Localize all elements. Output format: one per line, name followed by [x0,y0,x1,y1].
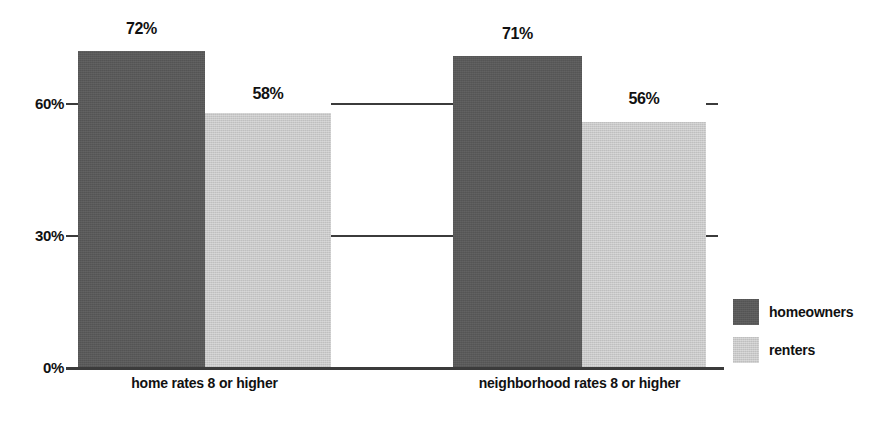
bar-neighborhood-rates-homeowners [453,56,582,368]
gridline-30 [331,235,453,237]
legend-item-homeowners: homeowners [733,297,865,327]
y-axis-label-30: 30% [35,227,64,244]
x-axis-baseline [66,367,724,370]
bar-home-rates-renters [205,113,331,368]
y-axis-label-60: 60% [35,95,64,112]
legend-item-renters: renters [733,335,865,365]
value-label-neighborhood-rates-homeowners: 71% [453,25,582,43]
y-axis-tick-right-60 [706,103,718,105]
y-axis-tick-60 [66,103,78,105]
y-axis-tick-30 [66,235,78,237]
bar-chart: 60% 30% 0% 72% 58% 71% 56% home rates 8 … [0,0,870,425]
legend-label-renters: renters [769,342,815,358]
bar-neighborhood-rates-renters [582,122,706,368]
legend: homeowners renters [733,297,865,373]
gridline-60 [331,103,453,105]
legend-swatch-homeowners [733,299,759,325]
x-axis-category-label-home-rates: home rates 8 or higher [78,375,331,391]
legend-swatch-renters [733,337,759,363]
y-axis-tick-right-30 [706,235,718,237]
legend-label-homeowners: homeowners [769,304,853,320]
value-label-home-rates-homeowners: 72% [78,20,205,38]
bar-home-rates-homeowners [78,51,205,368]
y-axis-label-0: 0% [43,359,64,376]
x-axis-category-label-neighborhood-rates: neighborhood rates 8 or higher [453,375,706,391]
value-label-home-rates-renters: 58% [205,85,331,103]
value-label-neighborhood-rates-renters: 56% [582,90,706,108]
